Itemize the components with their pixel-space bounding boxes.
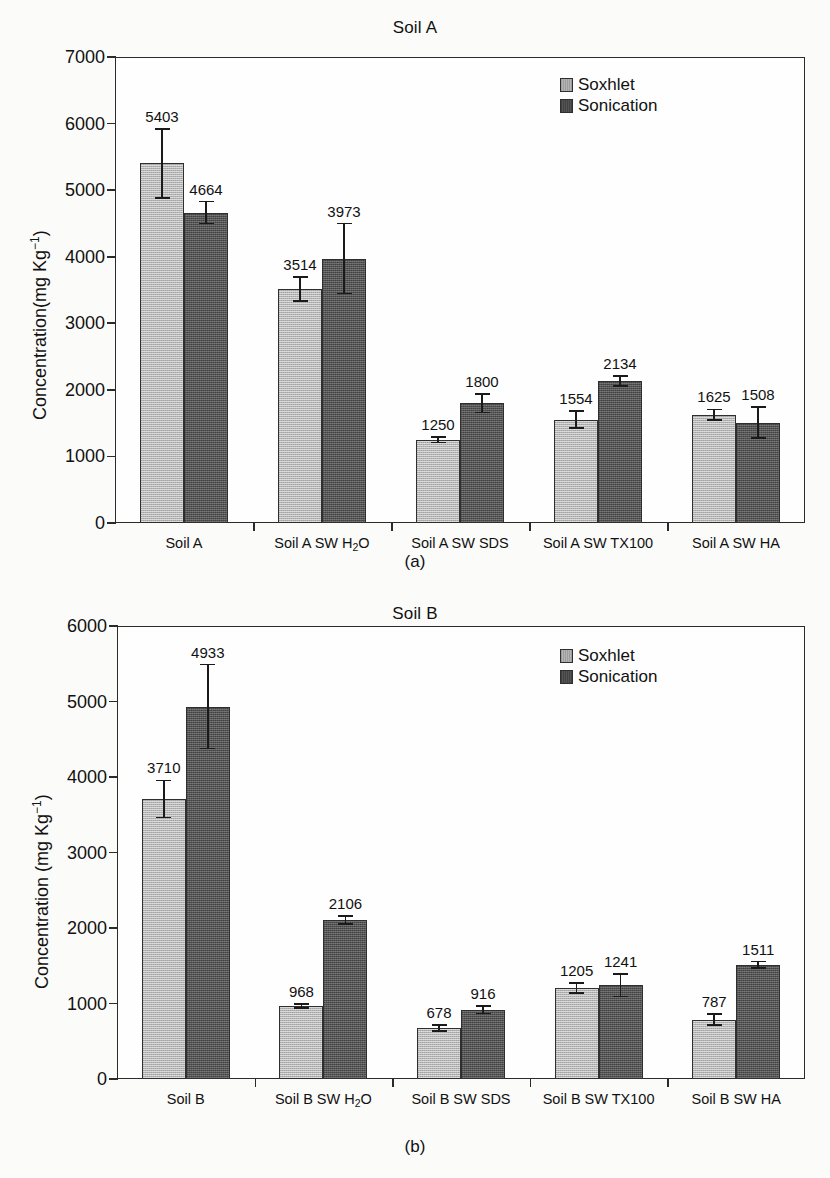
error-bar-cap-lower <box>156 817 171 819</box>
bar-value-label: 968 <box>271 984 331 999</box>
error-bar-cap-lower <box>569 427 584 429</box>
panel-a-caption: (a) <box>0 552 830 572</box>
y-tick-label: 5000 <box>41 181 105 199</box>
y-tick-label: 2000 <box>41 381 105 399</box>
legend-swatch-soxhlet-icon <box>560 649 573 663</box>
error-bar-cap-lower <box>293 300 308 302</box>
y-tick-mark <box>109 701 118 703</box>
bar-sonication <box>599 985 643 1079</box>
error-bar-cap-lower <box>613 996 628 998</box>
y-tick-mark <box>107 189 116 191</box>
bar-sonication <box>461 1010 505 1079</box>
bar-sonication <box>598 381 642 523</box>
x-tick-mark <box>530 1079 532 1087</box>
error-bar-cap-lower <box>338 923 353 925</box>
bar-value-label: 1511 <box>728 942 788 957</box>
error-bar-cap-lower <box>476 1013 491 1015</box>
bar-value-label: 4664 <box>176 182 236 197</box>
legend-swatch-soxhlet-icon <box>560 78 573 92</box>
bar-soxhlet <box>416 440 460 523</box>
bar-value-label: 787 <box>684 994 744 1009</box>
error-bar-cap-lower <box>707 419 722 421</box>
bar-value-label: 3973 <box>314 204 374 219</box>
x-label-text: Soil A SW TX100 <box>543 535 653 551</box>
y-axis-label-exponent: −1 <box>30 800 44 814</box>
bar-value-label: 1800 <box>452 374 512 389</box>
error-bar-cap-upper <box>337 223 352 225</box>
bar-value-label: 2106 <box>315 896 375 911</box>
x-label-text: Soil A SW H <box>274 535 352 551</box>
x-tick-mark <box>667 1079 669 1087</box>
bar-soxhlet <box>279 1006 323 1079</box>
error-bar-stem <box>205 202 207 224</box>
x-tick-mark <box>255 1079 257 1087</box>
y-tick-mark <box>109 1078 118 1080</box>
error-bar-cap-lower <box>613 385 628 387</box>
x-tick-mark <box>253 523 255 531</box>
error-bar-cap-upper <box>613 375 628 377</box>
error-bar-cap-lower <box>751 967 766 969</box>
error-bar-cap-upper <box>569 410 584 412</box>
error-bar-stem <box>161 129 163 198</box>
x-label-text: Soil B SW HA <box>691 1091 780 1107</box>
legend-swatch-sonication-icon <box>560 670 573 684</box>
bar-soxhlet <box>554 420 598 523</box>
bar-value-label: 3710 <box>134 760 194 775</box>
error-bar-cap-upper <box>155 128 170 130</box>
bar-soxhlet <box>278 289 322 523</box>
error-bar-stem <box>163 780 165 817</box>
legend-label-sonication: Sonication <box>578 97 657 114</box>
error-bar-cap-upper <box>569 982 584 984</box>
x-axis-category-label: Soil A SW HA <box>646 536 826 551</box>
error-bar-stem <box>620 974 622 997</box>
legend-label-soxhlet: Soxhlet <box>578 76 635 93</box>
bar-value-label: 678 <box>409 1005 469 1020</box>
error-bar-cap-upper <box>751 961 766 963</box>
y-tick-label: 1000 <box>41 447 105 465</box>
error-bar-cap-upper <box>476 1005 491 1007</box>
error-bar-cap-lower <box>337 293 352 295</box>
y-tick-label: 6000 <box>41 115 105 133</box>
chart-panel-a: Soil A Concentration(mg Kg−1) Soxhlet So… <box>0 0 830 589</box>
bar-value-label: 4933 <box>178 645 238 660</box>
error-bar-stem <box>207 665 209 749</box>
bar-value-label: 2134 <box>590 356 650 371</box>
bar-value-label: 3514 <box>270 257 330 272</box>
y-tick-mark <box>109 927 118 929</box>
y-axis-label-exponent: −1 <box>28 236 42 250</box>
error-bar-cap-lower <box>432 1030 447 1032</box>
y-tick-mark <box>107 389 116 391</box>
x-label-text: Soil A SW SDS <box>411 535 509 551</box>
bar-soxhlet <box>692 415 736 523</box>
bar-soxhlet <box>417 1028 461 1079</box>
y-tick-label: 5000 <box>43 693 107 711</box>
error-bar-cap-upper <box>613 973 628 975</box>
x-label-text: Soil B SW H <box>275 1091 355 1107</box>
error-bar-cap-lower <box>475 412 490 414</box>
bar-soxhlet <box>555 988 599 1079</box>
error-bar-cap-upper <box>431 436 446 438</box>
y-tick-mark <box>109 776 118 778</box>
y-tick-label: 0 <box>41 514 105 532</box>
error-bar-cap-upper <box>707 1013 722 1015</box>
error-bar-cap-upper <box>432 1024 447 1026</box>
x-label-text: Soil B SW TX100 <box>543 1091 655 1107</box>
error-bar-cap-upper <box>200 664 215 666</box>
bar-soxhlet <box>142 799 186 1079</box>
error-bar-cap-lower <box>569 992 584 994</box>
panel-b-title: Soil B <box>0 604 830 624</box>
x-tick-mark <box>667 523 669 531</box>
bar-sonication <box>323 920 367 1079</box>
bar-value-label: 1250 <box>408 417 468 432</box>
error-bar-cap-upper <box>293 276 308 278</box>
panel-b-caption: (b) <box>0 1137 830 1157</box>
y-tick-label: 2000 <box>43 919 107 937</box>
y-tick-mark <box>109 1003 118 1005</box>
y-tick-label: 1000 <box>43 995 107 1013</box>
y-tick-label: 7000 <box>41 48 105 66</box>
legend-item-soxhlet: Soxhlet <box>560 647 657 664</box>
y-tick-mark <box>109 625 118 627</box>
bar-sonication <box>186 707 230 1079</box>
error-bar-stem <box>575 411 577 428</box>
x-label-text: Soil B <box>167 1091 205 1107</box>
